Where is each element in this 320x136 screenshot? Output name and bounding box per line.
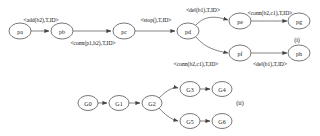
- graph-svg: <add(b2),T,ID><conn(p1,b2),T,ID><stop(),…: [0, 0, 320, 136]
- node-label: pb: [59, 29, 65, 35]
- graph-node[interactable]: G3: [180, 82, 200, 97]
- graph-node[interactable]: pc: [113, 23, 135, 39]
- graph-node[interactable]: pd: [177, 23, 199, 39]
- node-label: G5: [186, 119, 193, 125]
- node-label: pg: [296, 19, 302, 25]
- graph-node[interactable]: G1: [109, 96, 129, 111]
- graph-node[interactable]: ph: [288, 45, 310, 61]
- node-label: G1: [115, 101, 122, 107]
- graph-edge: [196, 17, 228, 25]
- node-label: G4: [218, 87, 225, 93]
- node-label: G6: [218, 119, 225, 125]
- graph-node[interactable]: G6: [212, 114, 232, 129]
- figure-caption: (ii): [236, 100, 243, 107]
- diagram-canvas: <add(b2),T,ID><conn(p1,b2),T,ID><stop(),…: [0, 0, 320, 136]
- graph-node[interactable]: G0: [78, 96, 98, 111]
- node-label: pe: [237, 19, 243, 25]
- node-label: pa: [17, 29, 23, 35]
- graph-node[interactable]: G4: [212, 82, 232, 97]
- figure-caption: (i): [294, 37, 300, 44]
- edge-label: <stop(),T,ID>: [140, 17, 171, 24]
- node-label: G2: [148, 101, 155, 107]
- graph-node[interactable]: pa: [9, 23, 31, 39]
- graph-node[interactable]: G5: [180, 114, 200, 129]
- node-label: pc: [121, 29, 127, 35]
- graph-node[interactable]: pg: [288, 13, 310, 29]
- node-label: pf: [238, 51, 243, 57]
- nodes-layer: papbpcpdpepgpfphG0G1G2G3G4G5G6: [9, 13, 310, 129]
- node-label: ph: [296, 51, 302, 57]
- edge-label: <del(b1),T,ID>: [186, 7, 220, 14]
- graph-edge: [159, 108, 178, 121]
- graph-edge: [159, 88, 178, 98]
- edge-label: <conn(b2,c1),T,ID>: [248, 10, 293, 17]
- graph-edge: [196, 37, 228, 53]
- graph-node[interactable]: pf: [229, 45, 251, 61]
- graph-node[interactable]: pe: [229, 13, 251, 29]
- edge-label: <add(b2),T,ID>: [23, 17, 58, 24]
- node-label: pd: [185, 29, 191, 35]
- node-label: G0: [84, 101, 91, 107]
- node-label: G3: [186, 87, 193, 93]
- graph-node[interactable]: G2: [142, 96, 162, 111]
- edge-label: <conn(b2,c1),T,ID>: [174, 61, 219, 68]
- edge-label: <del(b1),T,ID>: [253, 61, 287, 68]
- edge-label: <conn(p1,b2),T,ID>: [70, 40, 115, 47]
- graph-node[interactable]: pb: [51, 23, 73, 39]
